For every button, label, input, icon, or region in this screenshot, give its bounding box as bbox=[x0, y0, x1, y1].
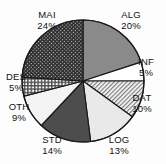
slice-label-percent: 14% bbox=[35, 145, 69, 156]
slice-label-percent: 24% bbox=[30, 20, 64, 31]
slice-label-name: DAT bbox=[125, 92, 159, 103]
slice-label-mai: MAI24% bbox=[30, 9, 64, 31]
slice-label-inf: INF5% bbox=[129, 56, 163, 78]
slice-label-name: LOG bbox=[102, 134, 136, 145]
slice-label-name: OTH bbox=[2, 101, 36, 112]
slice-label-percent: 20% bbox=[114, 20, 148, 31]
slice-label-dat: DAT10% bbox=[125, 92, 159, 114]
slice-label-std: STD14% bbox=[35, 134, 69, 156]
slice-label-percent: 13% bbox=[102, 145, 136, 156]
slice-label-percent: 5% bbox=[0, 82, 33, 93]
pie-chart-figure: ALG20%INF5%DAT10%LOG13%STD14%OTH9%DES5%M… bbox=[0, 0, 166, 164]
slice-label-percent: 5% bbox=[129, 67, 163, 78]
slice-label-percent: 10% bbox=[125, 103, 159, 114]
slice-label-name: INF bbox=[129, 56, 163, 67]
slice-label-log: LOG13% bbox=[102, 134, 136, 156]
slice-label-des: DES5% bbox=[0, 71, 33, 93]
slice-label-name: STD bbox=[35, 134, 69, 145]
slice-label-oth: OTH9% bbox=[2, 101, 36, 123]
slice-label-name: ALG bbox=[114, 9, 148, 20]
slice-label-name: MAI bbox=[30, 9, 64, 20]
slice-label-name: DES bbox=[0, 71, 33, 82]
slice-label-percent: 9% bbox=[2, 112, 36, 123]
pie-slices-group bbox=[22, 20, 144, 142]
slice-label-alg: ALG20% bbox=[114, 9, 148, 31]
